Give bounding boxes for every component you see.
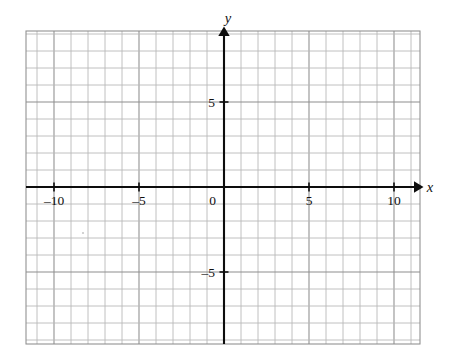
coordinate-plane-figure: –10–55105–50 x y [0, 0, 456, 356]
figure-background [0, 0, 456, 356]
coordinate-plane-svg: –10–55105–50 x y [0, 0, 456, 356]
x-axis-label: x [426, 179, 434, 195]
x-tick-label: –5 [131, 193, 146, 208]
x-tick-label: 5 [306, 193, 313, 208]
x-tick-label: –10 [43, 193, 65, 208]
origin-label: 0 [209, 193, 216, 208]
x-tick-label: 10 [387, 193, 401, 208]
scan-speck [82, 232, 84, 234]
y-tick-label: 5 [208, 95, 215, 110]
y-axis-label: y [223, 10, 232, 26]
y-tick-label: –5 [201, 265, 216, 280]
